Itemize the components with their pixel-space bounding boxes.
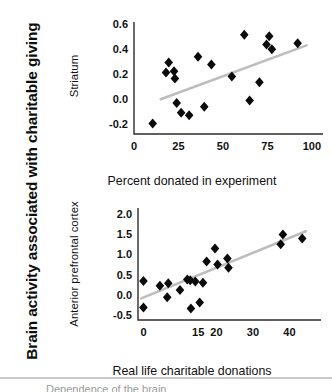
y-tick-label: 0.5: [117, 269, 132, 281]
y-tick-label: 0.0: [113, 93, 128, 105]
y-axis-title-apfc: Anterior prefrontal cortex: [68, 190, 80, 338]
data-point-marker: [279, 229, 288, 239]
chart-panel-apfc: Anterior prefrontal cortex -0.50.00.51.0…: [56, 196, 328, 384]
data-point-marker: [139, 276, 148, 286]
data-point-marker: [163, 292, 172, 302]
figure-root: Brain activity associated with charitabl…: [0, 0, 332, 392]
data-point-marker: [148, 118, 157, 128]
y-tick-label: -0.5: [113, 309, 132, 321]
footer-divider: [0, 377, 332, 379]
y-tick-label: 0.6: [113, 18, 128, 30]
x-axis-title-apfc: Real life charitable donations: [56, 364, 328, 378]
caption-partial: Dependence of the brain: [46, 383, 306, 392]
data-point-marker: [199, 278, 208, 288]
data-point-marker: [245, 95, 254, 105]
scatter-svg-striatum: -0.20.00.20.40.60255075100: [112, 16, 327, 155]
y-tick-label: 0.2: [113, 68, 128, 80]
x-tick-label: 100: [303, 140, 321, 152]
chart-panel-striatum: Striatum -0.20.00.20.40.60255075100 Perc…: [56, 8, 328, 194]
data-point-marker: [170, 66, 179, 76]
x-tick-label: 0: [140, 326, 146, 338]
x-tick-label: 15: [192, 326, 204, 338]
data-point-marker: [207, 60, 216, 70]
x-tick-label: 50: [217, 140, 229, 152]
data-point-marker: [139, 302, 148, 312]
y-tick-label: 0.4: [113, 43, 129, 55]
x-tick-label: 30: [247, 326, 259, 338]
data-point-marker: [195, 298, 204, 308]
data-point-marker: [255, 77, 264, 87]
data-point-marker: [200, 102, 209, 112]
data-point-marker: [211, 243, 220, 253]
data-point-marker: [187, 303, 196, 313]
data-point-marker: [164, 57, 173, 67]
y-tick-label: -0.2: [109, 118, 128, 130]
scatter-svg-apfc: -0.50.00.51.01.52.0015203040: [112, 204, 327, 341]
x-axis-title-striatum: Percent donated in experiment: [56, 174, 328, 188]
plot-area-apfc: -0.50.00.51.01.52.0015203040: [112, 204, 327, 341]
trend-line: [161, 45, 307, 99]
y-tick-label: 1.0: [117, 248, 132, 260]
x-tick-label: 20: [210, 326, 222, 338]
x-tick-label: 25: [172, 140, 184, 152]
data-point-marker: [240, 30, 249, 40]
data-point-marker: [185, 110, 194, 120]
x-tick-label: 40: [283, 326, 295, 338]
plot-area-striatum: -0.20.00.20.40.60255075100: [112, 16, 327, 155]
data-point-marker: [172, 98, 181, 108]
x-tick-label: 0: [131, 140, 137, 152]
data-point-marker: [194, 52, 203, 62]
data-point-marker: [171, 74, 180, 84]
y-axis-title-striatum: Striatum: [68, 21, 80, 131]
y-tick-label: 0.0: [117, 289, 132, 301]
x-tick-label: 75: [261, 140, 273, 152]
y-tick-label: 2.0: [117, 208, 132, 220]
data-point-marker: [176, 285, 185, 295]
data-point-marker: [202, 257, 211, 267]
data-point-marker: [162, 67, 171, 77]
figure-super-label: Brain activity associated with charitabl…: [23, 11, 41, 371]
data-point-marker: [177, 108, 186, 118]
axis-spines: [134, 22, 323, 134]
y-tick-label: 1.5: [117, 228, 132, 240]
